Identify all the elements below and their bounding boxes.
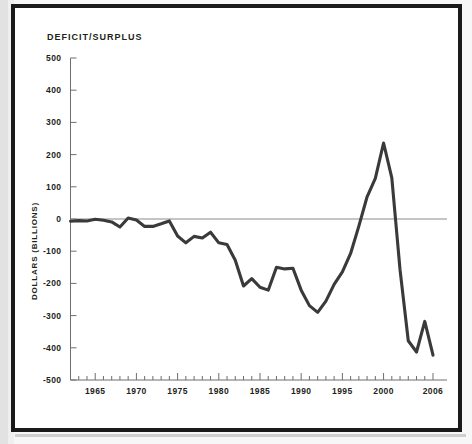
data-series-line (71, 143, 434, 355)
y-tick-label: 0 (56, 214, 61, 224)
y-tick-label: 500 (46, 53, 61, 63)
y-tick-label: 300 (46, 117, 61, 127)
x-tick-label: 1970 (126, 386, 147, 396)
x-axis-group: 196519701975198019851990199520002006 (71, 373, 448, 396)
x-tick-label: 1980 (209, 386, 230, 396)
y-tick-label: -100 (43, 246, 62, 256)
y-tick-label: -300 (43, 311, 62, 321)
x-axis-minor-ticks (71, 373, 434, 380)
y-tick-label: -200 (43, 278, 62, 288)
x-axis-tick-labels: 196519701975198019851990199520002006 (85, 386, 443, 396)
x-tick-label: 1975 (167, 386, 188, 396)
figure-root: DEFICIT/SURPLUS DOLLARS (BILLIONS) 50040… (0, 0, 472, 444)
x-tick-label: 1985 (250, 386, 271, 396)
x-tick-label: 1990 (291, 386, 312, 396)
y-tick-label: 100 (46, 182, 61, 192)
y-tick-label: 400 (46, 85, 61, 95)
x-tick-label: 1995 (332, 386, 353, 396)
x-tick-label: 2006 (423, 386, 444, 396)
x-tick-label: 1965 (85, 386, 106, 396)
y-tick-label: -400 (43, 343, 62, 353)
y-tick-label: 200 (46, 150, 61, 160)
y-tick-label: -500 (43, 375, 62, 385)
line-chart-plot: 5004003002001000-100-200-300-400-500 196… (0, 0, 472, 444)
y-axis-tick-labels: 5004003002001000-100-200-300-400-500 (43, 53, 62, 385)
x-tick-label: 2000 (373, 386, 394, 396)
